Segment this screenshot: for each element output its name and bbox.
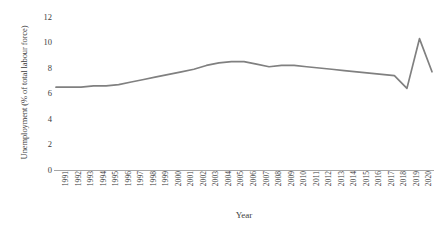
x-tick-label-2000: 2000 bbox=[174, 171, 184, 205]
x-tick-label-2014: 2014 bbox=[349, 171, 359, 205]
x-tick-label-2012: 2012 bbox=[324, 171, 334, 205]
x-tick-label-2018: 2018 bbox=[399, 171, 409, 205]
x-tick-label-1997: 1997 bbox=[136, 171, 146, 205]
x-tick-label-2013: 2013 bbox=[337, 171, 347, 205]
x-tick-label-2005: 2005 bbox=[236, 171, 246, 205]
y-tick-label-12: 12 bbox=[30, 13, 52, 22]
x-tick-label-2008: 2008 bbox=[274, 171, 284, 205]
x-tick-label-2001: 2001 bbox=[186, 171, 196, 205]
series-line-unemployment bbox=[56, 12, 432, 172]
x-tick-label-1993: 1993 bbox=[86, 171, 96, 205]
x-tick-label-2007: 2007 bbox=[262, 171, 272, 205]
x-axis-title: Year bbox=[56, 209, 432, 221]
x-tick-label-2002: 2002 bbox=[199, 171, 209, 205]
x-tick-label-1995: 1995 bbox=[111, 171, 121, 205]
x-tick-label-2006: 2006 bbox=[249, 171, 259, 205]
x-tick-label-2016: 2016 bbox=[374, 171, 384, 205]
x-tick-label-1991: 1991 bbox=[61, 171, 71, 205]
y-tick-label-0: 0 bbox=[30, 166, 52, 175]
x-tick-label-1999: 1999 bbox=[161, 171, 171, 205]
x-tick-label-2011: 2011 bbox=[312, 171, 322, 205]
plot-area bbox=[56, 12, 432, 172]
y-tick-label-2: 2 bbox=[30, 140, 52, 149]
x-tick-label-2019: 2019 bbox=[412, 171, 422, 205]
y-tick-label-8: 8 bbox=[30, 64, 52, 73]
x-tick-label-2003: 2003 bbox=[211, 171, 221, 205]
x-axis-tick-labels: 1991199219931994199519961997199819992000… bbox=[56, 173, 432, 205]
y-tick-label-6: 6 bbox=[30, 89, 52, 98]
y-tick-label-10: 10 bbox=[30, 38, 52, 47]
x-tick-label-1994: 1994 bbox=[99, 171, 109, 205]
y-tick-label-4: 4 bbox=[30, 115, 52, 124]
x-tick-label-1992: 1992 bbox=[74, 171, 84, 205]
x-tick-label-2017: 2017 bbox=[387, 171, 397, 205]
x-tick-label-2004: 2004 bbox=[224, 171, 234, 205]
x-tick-label-2020: 2020 bbox=[424, 171, 434, 205]
x-tick-label-2015: 2015 bbox=[362, 171, 372, 205]
unemployment-line-chart: Unemployment (% of total labour force) 0… bbox=[0, 0, 435, 228]
x-tick-label-1996: 1996 bbox=[124, 171, 134, 205]
x-tick-label-2010: 2010 bbox=[299, 171, 309, 205]
unemployment-line-path bbox=[56, 39, 432, 89]
x-tick-label-1998: 1998 bbox=[149, 171, 159, 205]
y-axis-tick-labels: 024681012 bbox=[30, 10, 52, 175]
x-tick-label-2009: 2009 bbox=[287, 171, 297, 205]
